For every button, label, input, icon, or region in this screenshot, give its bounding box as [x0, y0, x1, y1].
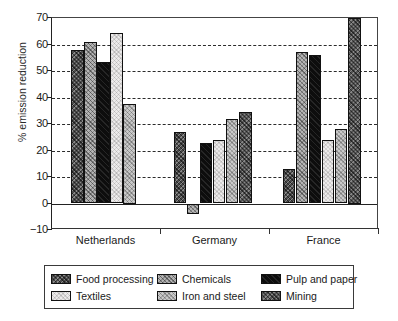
bar [174, 132, 187, 204]
legend-swatch [157, 274, 177, 284]
gridline [52, 45, 377, 46]
legend-entry: Textiles [51, 291, 157, 302]
y-axis-tick-label: −10 [30, 223, 48, 235]
legend-entry: Pulp and paper [261, 274, 361, 285]
bar [71, 50, 84, 204]
x-axis-category-label: France [269, 234, 379, 246]
x-axis-line [51, 228, 378, 229]
bar [123, 104, 136, 203]
x-axis-category-label: Netherlands [51, 234, 161, 246]
plot-inner [52, 18, 377, 229]
plot-area [51, 17, 378, 229]
bar [84, 42, 97, 204]
legend-entry: Iron and steel [157, 291, 261, 302]
bar [309, 55, 322, 203]
legend-entry: Mining [261, 291, 361, 302]
bar [97, 62, 110, 204]
x-axis-tick-mark [269, 228, 270, 234]
legend-label: Chemicals [182, 274, 231, 285]
x-axis-tick-mark [378, 228, 379, 234]
legend-label: Pulp and paper [286, 274, 357, 285]
legend-swatch [261, 274, 281, 284]
legend-label: Iron and steel [182, 291, 246, 302]
bar [187, 204, 200, 215]
bar [322, 140, 335, 204]
legend-swatch [157, 291, 177, 301]
bar [239, 112, 252, 203]
legend-label: Mining [286, 291, 317, 302]
bar [283, 169, 296, 203]
y-axis-tick-labels: 706050403020100−10 [0, 0, 48, 321]
legend-swatch [51, 291, 71, 301]
bar [226, 119, 239, 204]
legend-label: Textiles [76, 291, 111, 302]
bar [213, 140, 226, 204]
zero-line [52, 204, 377, 205]
legend-swatch [261, 291, 281, 301]
bar [296, 52, 309, 203]
bar [335, 129, 348, 203]
legend-entry: Chemicals [157, 274, 261, 285]
chart-legend: Food processingTextilesChemicalsIron and… [44, 265, 354, 309]
bar [348, 18, 361, 204]
bar [200, 143, 213, 204]
chart-figure: % emission reduction 706050403020100−10 … [0, 0, 398, 321]
bar [110, 33, 123, 204]
legend-swatch [51, 274, 71, 284]
x-axis-tick-mark [160, 228, 161, 234]
legend-entry: Food processing [51, 274, 157, 285]
legend-label: Food processing [76, 274, 154, 285]
y-axis-tick-mark [47, 229, 52, 230]
x-axis-category-label: Germany [160, 234, 270, 246]
